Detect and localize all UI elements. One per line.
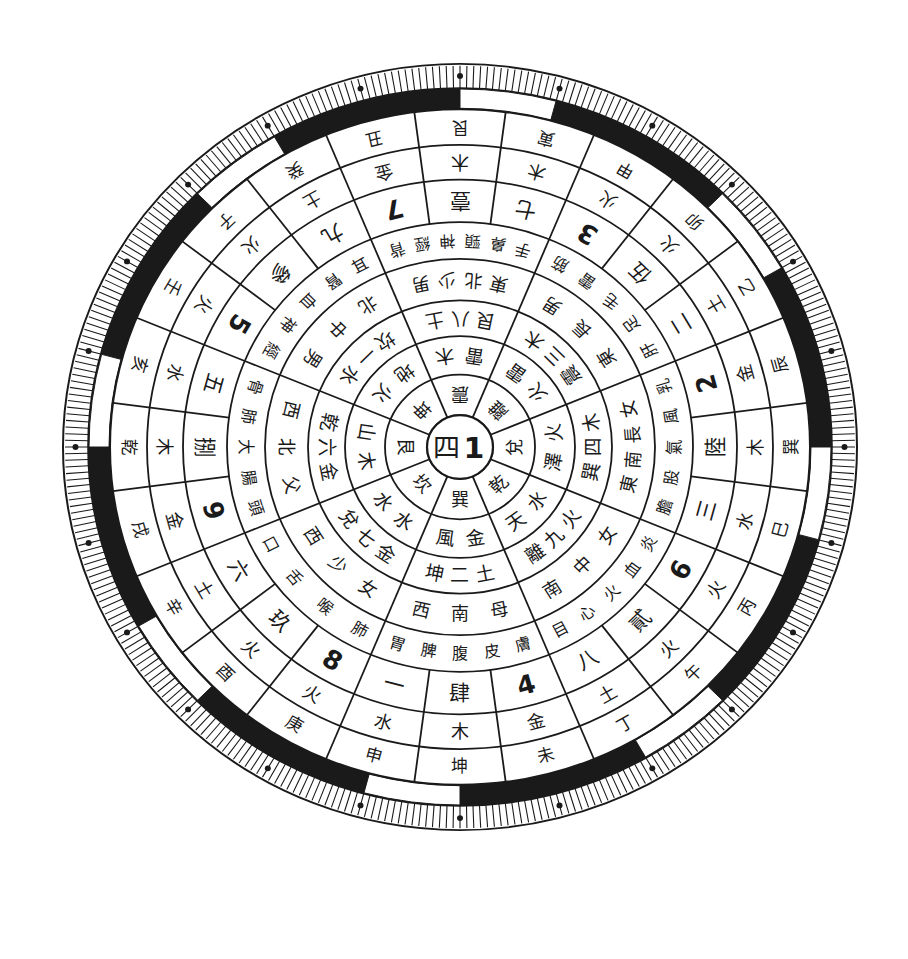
body-part-label: 神: [439, 231, 456, 251]
number-element-label: 四: [582, 438, 605, 456]
trigram-label: 震: [451, 384, 469, 405]
image-label: 山: [353, 422, 378, 444]
center-disc: 四 1: [427, 415, 493, 479]
body-part-label: 腹: [452, 644, 468, 663]
trigram-label: 艮: [395, 438, 417, 455]
image-label: 木: [434, 344, 456, 369]
body-part-label: 風: [661, 407, 683, 425]
body-part-label: 大: [236, 439, 256, 454]
body-part-label: 股: [661, 468, 683, 486]
trigram-label: 兌: [503, 438, 525, 455]
mountain-label: 巽: [781, 439, 802, 455]
number-element-label: 八: [450, 308, 469, 330]
mountain-label: 艮: [451, 118, 468, 138]
family-direction-label: 少: [437, 269, 457, 291]
element-label: 木: [154, 438, 176, 455]
family-direction-label: 南: [451, 603, 469, 624]
chinese-number-label: 壹: [449, 189, 470, 213]
element-label: 木: [451, 152, 469, 173]
image-label: 木: [353, 451, 378, 473]
mountain-label: 坤: [451, 756, 468, 776]
body-part-label: 脾: [419, 641, 438, 662]
family-direction-label: 長: [621, 425, 644, 444]
bagua-compass-diagram: 巽風金坤二土西南母胃脾腹皮膚乾天水離九火南中女目心火血炎兌澤火巽四木東南長女膽股…: [0, 0, 908, 959]
body-part-label: 皮: [482, 641, 501, 662]
body-part-label: 氣: [664, 439, 684, 454]
number-element-label: 二: [450, 564, 469, 586]
center-digit: 1: [464, 431, 485, 464]
center-hanzi-number: 四: [433, 432, 460, 462]
body-part-label: 鼻: [488, 233, 507, 254]
number-element-label: 六: [316, 438, 339, 456]
body-part-label: 腸: [237, 468, 259, 486]
chinese-number-label: 陸: [702, 437, 728, 457]
image-label: 澤: [541, 451, 566, 473]
family-direction-label: 南: [621, 450, 644, 469]
image-label: 金: [464, 525, 486, 550]
mountain-label: 乾: [119, 439, 140, 455]
chinese-number-label: 肆: [449, 681, 470, 705]
chinese-number-label: 捌: [192, 437, 218, 457]
body-part-label: 頸: [464, 231, 481, 251]
family-direction-label: 北: [463, 269, 483, 291]
element-label: 木: [451, 721, 469, 742]
trigram-label: 巽: [451, 489, 469, 510]
compass: 巽風金坤二土西南母胃脾腹皮膚乾天水離九火南中女目心火血炎兌澤火巽四木東南長女膽股…: [63, 64, 857, 830]
image-label: 雷: [464, 344, 486, 369]
image-label: 風: [434, 525, 456, 550]
body-part-label: 經: [412, 233, 431, 254]
family-direction-label: 北: [276, 438, 298, 455]
body-part-label: 肺: [237, 407, 259, 425]
image-label: 火: [541, 422, 566, 444]
element-label: 木: [744, 438, 766, 455]
